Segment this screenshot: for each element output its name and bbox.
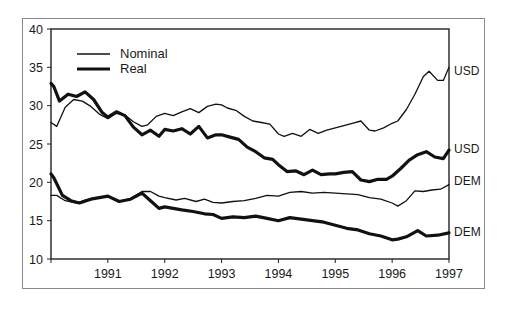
- legend-label-nominal: Nominal: [120, 46, 168, 61]
- y-tick-label: 10: [29, 253, 43, 267]
- x-tick-label: 1991: [94, 267, 122, 281]
- y-tick-label: 30: [29, 99, 43, 113]
- x-tick-label: 1996: [378, 267, 406, 281]
- end-label-dem-real: DEM: [454, 225, 481, 239]
- x-tick-label: 1997: [435, 267, 463, 281]
- y-tick-label: 35: [29, 61, 43, 75]
- legend-label-real: Real: [120, 61, 147, 76]
- end-label-usd-real: USD: [454, 142, 480, 156]
- end-label-dem-nominal: DEM: [454, 174, 481, 188]
- x-tick-label: 1995: [321, 267, 349, 281]
- y-tick-label: 15: [29, 214, 43, 228]
- y-tick-label: 20: [29, 176, 43, 190]
- x-tick-label: 1994: [265, 267, 293, 281]
- x-tick-label: 1992: [151, 267, 179, 281]
- exchange-rate-line-chart: 10152025303540 1991199219931994199519961…: [0, 0, 507, 310]
- end-label-usd-nominal: USD: [454, 64, 480, 78]
- x-tick-label: 1993: [208, 267, 236, 281]
- y-tick-label: 25: [29, 138, 43, 152]
- chart-outer-frame: [23, 19, 485, 289]
- y-tick-label: 40: [29, 23, 43, 37]
